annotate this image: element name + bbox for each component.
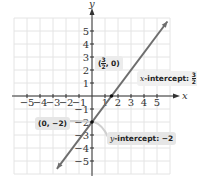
axes: xy xyxy=(12,0,188,176)
point-rest: , 0) xyxy=(106,59,120,68)
y-tick-label: −5 xyxy=(74,156,89,167)
x-intercept-callout: x-intercept: 32 xyxy=(137,71,197,86)
y-axis-arrow-icon xyxy=(90,8,95,15)
y-tick-label: 5 xyxy=(83,26,89,37)
data-point xyxy=(110,94,114,98)
fraction: 32 xyxy=(192,72,196,85)
x-tick-label: 3 xyxy=(128,97,134,108)
point-label-y-intercept: (0, −2) xyxy=(35,117,70,130)
y-axis-label: y xyxy=(88,0,95,9)
y-tick-label: 3 xyxy=(83,52,89,63)
x-intercept-text: -intercept: xyxy=(144,74,192,83)
x-axis-label: x xyxy=(182,90,188,101)
leader-line-point xyxy=(70,121,90,122)
y-tick-label: 1 xyxy=(83,78,89,89)
x-tick-label: 2 xyxy=(115,97,121,108)
x-tick-label: 4 xyxy=(141,97,147,108)
x-tick-label: 5 xyxy=(154,97,160,108)
y-tick-label: 4 xyxy=(83,39,89,50)
point-label-x-intercept: (32, 0) xyxy=(95,56,123,71)
coordinate-plane: xy −5−4−3−2−11234554321−1−2−3−4−5 xyxy=(0,0,197,184)
y-intercept-callout: y-intercept: −2 xyxy=(107,132,176,145)
y-tick-label: −1 xyxy=(74,104,89,115)
y-intercept-text: -intercept: −2 xyxy=(114,134,173,143)
y-tick-label: 2 xyxy=(83,65,89,76)
data-point xyxy=(90,120,94,124)
x-axis-arrow-icon xyxy=(173,94,180,99)
fraction-denominator: 2 xyxy=(192,79,196,85)
